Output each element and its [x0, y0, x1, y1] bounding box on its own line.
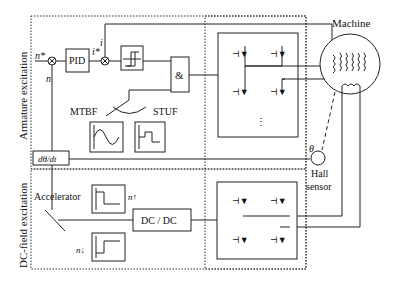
n-up-label: n↑	[128, 192, 137, 202]
n-down-label: n↓	[76, 245, 85, 255]
n-feedback-label: n	[46, 73, 51, 84]
field-inverter	[217, 182, 297, 259]
armature-excitation-label: Armature excitation	[17, 51, 29, 140]
igbt-switch-icon: ⊣▼	[270, 235, 287, 245]
igbt-switch-icon: ⊣▼	[270, 49, 287, 59]
dc-field-excitation-label: DC-field excitation	[17, 182, 29, 268]
igbt-switch-icon: ⊣▼	[232, 87, 249, 97]
hall-label-2: sensor	[306, 181, 332, 192]
mode-mtbf-label: MTBF	[70, 106, 98, 117]
i-star-label: i*	[92, 46, 100, 57]
machine-circle	[320, 34, 380, 94]
pid-label: PID	[69, 55, 85, 66]
ellipsis-icon: ⋮	[256, 116, 266, 127]
n-star-label: n*	[35, 50, 45, 61]
dcdc-label: DC / DC	[141, 215, 177, 226]
i-feedback-label: i	[100, 37, 103, 48]
machine-label: Machine	[332, 17, 371, 29]
step-up-waveform-block	[92, 233, 125, 261]
hall-label-1: Hall	[311, 168, 328, 179]
igbt-switch-icon: ⊣▼	[232, 49, 249, 59]
igbt-switch-icon: ⊣▼	[232, 235, 249, 245]
and-label: &	[175, 69, 184, 81]
accelerator-label: Accelerator	[34, 191, 81, 202]
step-down-waveform-block	[92, 185, 125, 213]
igbt-switch-icon: ⊣▼	[270, 196, 287, 206]
theta-label: θ	[309, 143, 314, 154]
igbt-switch-icon: ⊣▼	[270, 87, 287, 97]
igbt-switch-icon: ⊣▼	[232, 196, 249, 206]
diagram: Armature excitation DC-field excitation …	[0, 0, 401, 287]
mode-stuf-label: STUF	[153, 106, 178, 117]
derivative-label: dθ/dt	[38, 154, 57, 164]
